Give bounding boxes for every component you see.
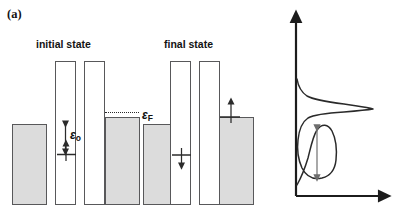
dos-curve [297, 79, 373, 185]
panel-a-tunnel-junction: (a) initial state final state εF εo [0, 0, 272, 221]
figure-root: (a) initial state final state εF εo [0, 0, 394, 221]
dos-plot-svg [272, 0, 394, 221]
panel-b-dos: (b) energy density of states Γ [272, 0, 394, 221]
panel-a-arrow-overlay [0, 0, 272, 221]
